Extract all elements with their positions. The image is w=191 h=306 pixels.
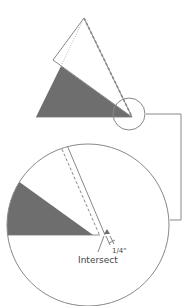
small-gray-tip bbox=[104, 229, 110, 234]
dimension-tick-1 bbox=[106, 236, 110, 245]
intersect-label: Intersect bbox=[78, 255, 118, 265]
overview bbox=[36, 18, 145, 130]
dimension-label: 1/4" bbox=[112, 247, 127, 255]
diagram-canvas: 1/4" Intersect bbox=[0, 0, 191, 306]
intersect-leader bbox=[98, 236, 104, 252]
magnified-view: 1/4" Intersect bbox=[0, 138, 169, 306]
dimension-tick-2 bbox=[110, 236, 114, 244]
connector-leader bbox=[146, 114, 181, 220]
